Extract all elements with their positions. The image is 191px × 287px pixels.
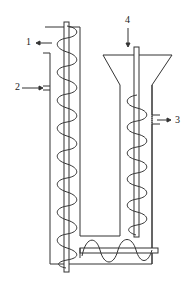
left-screw [57, 22, 77, 272]
arrows [22, 28, 171, 122]
bottom-screw [80, 240, 158, 263]
label-3: 3 [175, 115, 180, 125]
label-1: 1 [26, 37, 31, 47]
label-4: 4 [125, 15, 130, 25]
label-2: 2 [15, 82, 20, 92]
right-screw [127, 47, 147, 237]
